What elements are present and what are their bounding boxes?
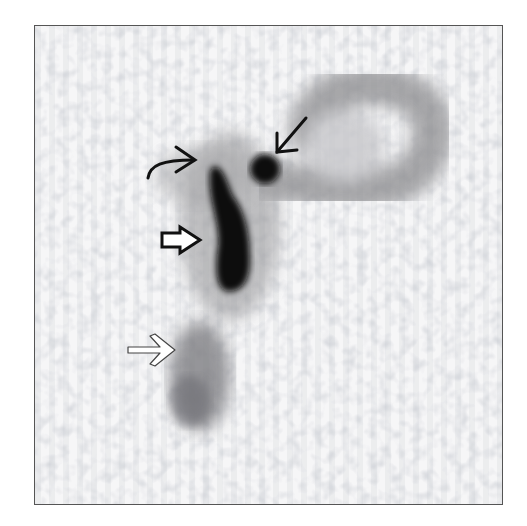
scintigraphy-image: [35, 26, 502, 504]
scan-frame: [34, 25, 503, 505]
focal-hot-spot: [250, 154, 280, 184]
